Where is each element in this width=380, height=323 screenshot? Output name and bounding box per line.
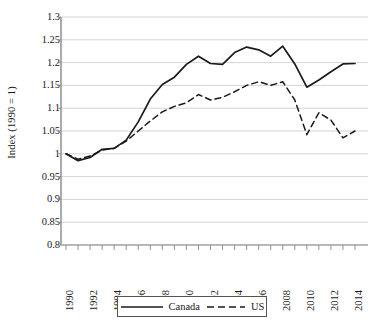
x-axis-tick-label: 1992: [89, 290, 99, 311]
x-axis-tick-label: 2014: [354, 290, 364, 311]
gridlines: [61, 17, 368, 245]
x-axis-tick-label: 1990: [65, 290, 75, 311]
data-series-layer: [66, 46, 355, 160]
legend-item-us: US: [206, 301, 264, 312]
x-axis-tick-label: 2008: [282, 290, 292, 311]
x-axis-tick-label: 2010: [306, 290, 316, 311]
series-line-canada: [66, 46, 355, 160]
x-axis-tick-label: 2012: [330, 290, 340, 311]
series-line-us: [66, 82, 355, 160]
x-axis-ticks: [66, 245, 355, 250]
chart-container: Index (1990 = 1) 1.31.251.21.151.11.0510…: [0, 0, 380, 323]
x-axis-tick-labels: 1990199219941996199820002002200420062008…: [0, 252, 380, 297]
chart-legend: Canada US: [117, 296, 267, 317]
legend-swatch-dashed-icon: [206, 304, 246, 310]
legend-swatch-solid-icon: [120, 304, 164, 310]
legend-item-canada: Canada: [120, 301, 201, 312]
legend-label-canada: Canada: [169, 301, 201, 312]
legend-label-us: US: [251, 301, 264, 312]
